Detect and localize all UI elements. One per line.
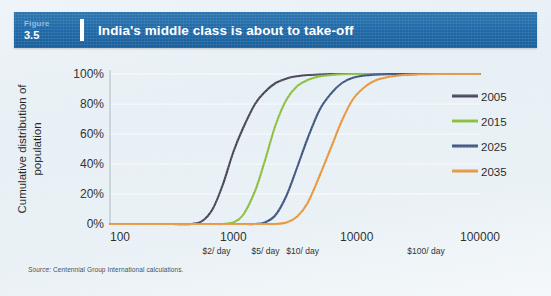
y-axis-tick-labels: 0%20%40%60%80%100%: [73, 67, 104, 231]
y-tick-label: 60%: [80, 127, 104, 141]
header-divider: [80, 19, 84, 41]
series-line-2005: [110, 74, 480, 224]
source-text: Centennial Group International calculati…: [51, 266, 183, 273]
y-tick-label: 40%: [80, 157, 104, 171]
x-tick-label: 100: [110, 230, 130, 244]
x-tick-label: 100000: [460, 230, 500, 244]
y-axis-title: Cumulative distribution ofpopulation: [16, 84, 43, 214]
legend-label-2015: 2015: [481, 116, 507, 128]
y-axis-title-line: Cumulative distribution of: [16, 84, 28, 214]
figure-number: 3.5: [24, 30, 80, 41]
series-line-2035: [110, 74, 480, 224]
legend-label-2025: 2025: [481, 141, 507, 153]
figure-label: Figure: [24, 20, 80, 28]
y-tick-label: 0%: [87, 217, 105, 231]
x-axis-annotations: $2/ day$5/ day$10/ day$100/ day: [203, 246, 446, 256]
legend-label-2035: 2035: [481, 166, 507, 178]
x-tick-label: 1000: [220, 230, 247, 244]
x-annotation-label: $100/ day: [407, 246, 445, 256]
series-line-2025: [110, 74, 480, 224]
source-note: Source: Centennial Group International c…: [28, 266, 184, 273]
figure-header-bar: Figure 3.5 India's middle class is about…: [14, 12, 537, 48]
x-annotation-label: $10/ day: [286, 246, 319, 256]
x-annotation-label: $5/ day: [252, 246, 281, 256]
y-tick-label: 80%: [80, 97, 104, 111]
y-axis-title-line: population: [31, 122, 43, 175]
y-tick-label: 20%: [80, 187, 104, 201]
figure-container: Figure 3.5 India's middle class is about…: [0, 0, 551, 296]
series-line-2015: [110, 74, 480, 224]
chart-area: 0%20%40%60%80%100% 100100010000100000 $2…: [0, 48, 551, 258]
legend-label-2005: 2005: [481, 91, 507, 103]
figure-tag: Figure 3.5: [14, 20, 80, 41]
cumulative-distribution-line-chart: 0%20%40%60%80%100% 100100010000100000 $2…: [0, 48, 551, 258]
x-axis-tick-labels: 100100010000100000: [110, 230, 500, 244]
series-lines: [110, 74, 480, 224]
figure-title: India's middle class is about to take-of…: [98, 23, 354, 38]
x-annotation-label: $2/ day: [203, 246, 232, 256]
x-tick-label: 10000: [340, 230, 374, 244]
y-tick-label: 100%: [73, 67, 104, 81]
source-label: Source:: [28, 266, 51, 273]
